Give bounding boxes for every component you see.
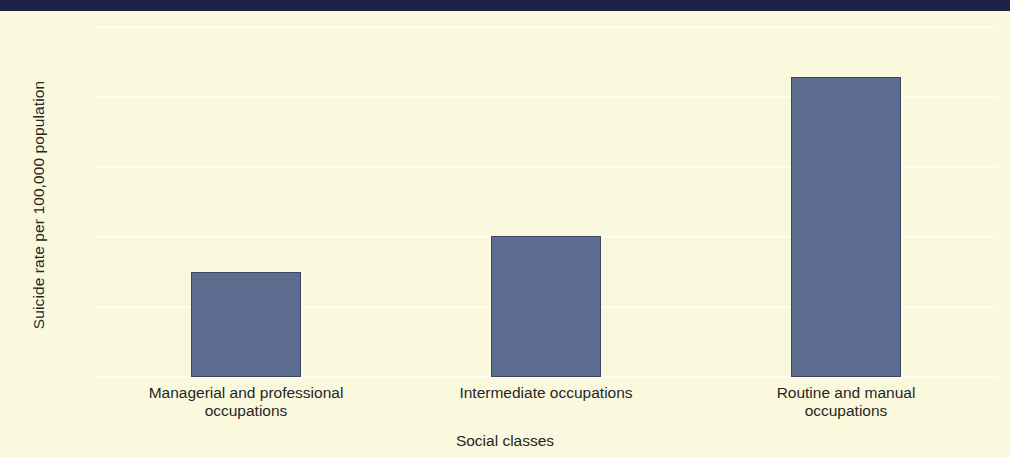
x-category-label: Intermediate occupations [396,384,696,402]
x-category-label: Managerial and professionaloccupations [96,384,396,420]
x-axis-title: Social classes [0,432,1010,450]
bar [191,272,301,377]
bar [491,236,601,377]
bar [791,77,901,377]
x-category-label-line: occupations [96,402,396,420]
x-category-label-line: Routine and manual [696,384,996,402]
y-axis-title: Suicide rate per 100,000 population [30,45,48,365]
x-category-label-line: Intermediate occupations [396,384,696,402]
x-category-label: Routine and manualoccupations [696,384,996,420]
page-top-band [0,0,1010,11]
chart-figure: Suicide rate per 100,000 population 0510… [0,0,1010,457]
x-category-label-line: Managerial and professional [96,384,396,402]
x-category-label-line: occupations [696,402,996,420]
gridline-y-25 [96,26,996,28]
